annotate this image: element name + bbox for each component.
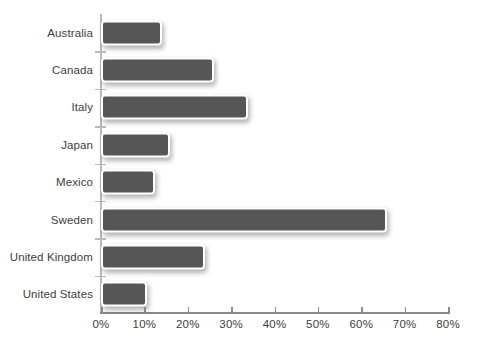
x-axis-tick xyxy=(275,307,277,314)
bar[interactable] xyxy=(101,58,214,83)
category-label: United Kingdom xyxy=(10,251,93,263)
category-label: Italy xyxy=(71,101,93,113)
bar[interactable] xyxy=(101,244,205,269)
x-axis-tick-label: 50% xyxy=(306,318,330,330)
bar-row: Canada xyxy=(0,51,479,88)
x-axis-tick-label: 0% xyxy=(92,318,109,330)
x-axis-tick xyxy=(361,307,363,314)
category-label: Japan xyxy=(61,139,93,151)
bar[interactable] xyxy=(101,207,387,232)
y-axis-tick xyxy=(95,201,106,203)
bar[interactable] xyxy=(101,20,162,45)
category-label: Canada xyxy=(52,64,93,76)
x-axis-tick xyxy=(448,307,450,314)
bar-row: Australia xyxy=(0,14,479,51)
x-axis-tick xyxy=(188,307,190,314)
category-label: Australia xyxy=(47,27,93,39)
bar-row: Mexico xyxy=(0,164,479,201)
y-axis-tick xyxy=(95,164,106,166)
x-axis-tick xyxy=(231,307,233,314)
y-axis-tick xyxy=(95,51,106,53)
horizontal-bar-chart: AustraliaCanadaItalyJapanMexicoSwedenUni… xyxy=(0,0,479,348)
x-axis-tick-label: 20% xyxy=(176,318,200,330)
category-label: Sweden xyxy=(51,214,93,226)
x-axis-tick-label: 60% xyxy=(349,318,373,330)
x-axis-tick-label: 70% xyxy=(393,318,417,330)
bar-row: Italy xyxy=(0,89,479,126)
bar[interactable] xyxy=(101,132,170,157)
bar-row: United Kingdom xyxy=(0,238,479,275)
x-axis-tick-label: 10% xyxy=(133,318,157,330)
category-label: United States xyxy=(23,288,93,300)
y-axis-tick xyxy=(95,276,106,278)
bar[interactable] xyxy=(101,95,248,120)
bar[interactable] xyxy=(101,282,147,307)
x-axis-tick xyxy=(318,307,320,314)
bar-row: Sweden xyxy=(0,201,479,238)
x-axis-tick-label: 40% xyxy=(263,318,287,330)
bar-row: Japan xyxy=(0,126,479,163)
x-axis-tick-label: 30% xyxy=(219,318,243,330)
x-axis-tick-label: 80% xyxy=(436,318,460,330)
y-axis-tick xyxy=(95,89,106,91)
x-axis-tick xyxy=(144,307,146,314)
bar[interactable] xyxy=(101,170,155,195)
category-label: Mexico xyxy=(56,176,93,188)
x-axis-tick xyxy=(101,307,103,314)
bar-row: United States xyxy=(0,276,479,313)
y-axis-tick xyxy=(95,126,106,128)
x-axis-tick xyxy=(405,307,407,314)
y-axis-tick xyxy=(95,238,106,240)
